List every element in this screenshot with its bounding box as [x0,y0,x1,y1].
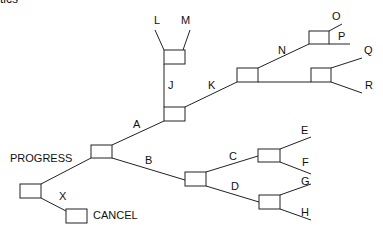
edge-m [183,30,190,50]
label-cancel: CANCEL [93,209,138,221]
node-c [258,149,280,162]
node-k [237,68,258,82]
edge-e [280,137,311,149]
node-d [259,195,280,209]
label-c: C [229,150,237,162]
label-progress: PROGRESS [10,152,72,164]
edge-l [155,30,164,50]
edge-r [331,82,362,93]
label-e: E [301,124,308,136]
edge-q [331,58,362,68]
label-a: A [133,118,141,130]
node-qr [311,68,331,82]
label-r: R [365,79,373,91]
node-cancel [66,209,87,223]
label-h: H [301,206,309,218]
node-a [164,107,185,121]
label-f: F [302,156,309,168]
label-g: G [301,175,310,187]
decision-tree-diagram: PROGRESS CANCEL X A B J K L M N O P Q R … [0,0,383,235]
label-m: M [181,14,190,26]
label-k: K [208,79,216,91]
node-b [185,172,206,186]
node-n [309,31,329,44]
label-x: X [59,190,67,202]
node-progress [91,145,112,158]
label-l: L [154,14,160,26]
label-p: P [338,30,345,42]
label-o: O [332,10,341,22]
label-j: J [168,79,174,91]
label-n: N [278,44,286,56]
label-b: B [145,154,152,166]
label-d: D [231,180,239,192]
node-root [20,184,41,198]
node-j [164,50,185,64]
label-q: Q [364,44,373,56]
